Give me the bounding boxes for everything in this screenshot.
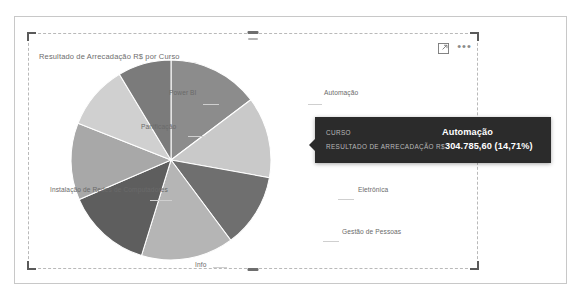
report-page: Resultado de Arrecadação R$ por Curso ••… bbox=[14, 16, 567, 284]
chart-tooltip: CURSO Automação RESULTADO DE ARRECADAÇÃO… bbox=[315, 117, 551, 163]
pie-chart-visual[interactable]: Resultado de Arrecadação R$ por Curso ••… bbox=[28, 33, 478, 269]
data-label-panificacao: Panificação bbox=[141, 123, 176, 130]
tooltip-label-resultado: RESULTADO DE ARRECADAÇÃO R$ bbox=[326, 142, 445, 152]
data-label-instalacao-redes: Instalação de Redes de Computadores bbox=[50, 186, 168, 193]
leader-line-automacao bbox=[308, 104, 322, 105]
data-label-info: Info bbox=[195, 261, 206, 268]
data-label-gestao-pessoas: Gestão de Pessoas bbox=[342, 228, 401, 235]
data-label-automacao: Automação bbox=[324, 89, 358, 96]
tooltip-label-curso: CURSO bbox=[326, 128, 442, 138]
leader-line-gestao bbox=[323, 241, 339, 242]
data-label-power-bi: Power BI bbox=[169, 89, 197, 96]
data-label-eletronica: Eletrônica bbox=[358, 186, 388, 193]
leader-line-info bbox=[213, 267, 227, 268]
tooltip-row-resultado: RESULTADO DE ARRECADAÇÃO R$ 304.785,60 (… bbox=[326, 139, 539, 153]
leader-line-panificacao bbox=[188, 136, 206, 137]
tooltip-value-curso: Automação bbox=[442, 125, 493, 139]
leader-line-power-bi bbox=[203, 104, 219, 105]
leader-line-instalacao bbox=[150, 200, 172, 201]
leader-line-eletronica bbox=[338, 199, 354, 200]
tooltip-value-resultado: 304.785,60 (14,71%) bbox=[445, 139, 533, 153]
tooltip-row-curso: CURSO Automação bbox=[326, 125, 539, 139]
